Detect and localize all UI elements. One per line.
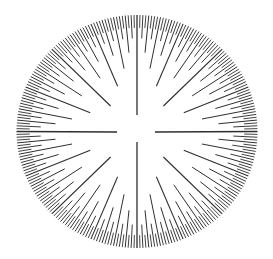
dial-tick xyxy=(150,17,161,68)
dial-tick xyxy=(128,15,129,28)
dial-tick xyxy=(160,222,166,245)
dial-tick xyxy=(116,17,118,30)
dial-tick xyxy=(102,20,113,56)
dial-tick xyxy=(228,69,239,76)
dial-tick xyxy=(44,182,74,206)
dial-tick xyxy=(161,20,172,56)
dial-tick xyxy=(35,69,46,76)
dial-tick xyxy=(19,109,72,119)
dial-tick xyxy=(68,216,76,226)
dial-tick xyxy=(163,157,222,214)
dial-tick xyxy=(155,234,157,247)
dial-tick xyxy=(83,224,89,235)
dial-tick xyxy=(22,155,59,166)
dial-tick xyxy=(61,193,85,222)
dial-tick xyxy=(244,123,257,124)
dial-tick xyxy=(228,187,239,194)
dial-tick xyxy=(17,136,41,137)
dial-tick xyxy=(180,226,185,238)
dial-tick xyxy=(17,144,30,146)
dial-tick xyxy=(180,25,185,37)
dial-tick xyxy=(113,194,124,245)
dial-tick xyxy=(128,235,129,248)
dial-tick xyxy=(243,144,256,146)
dial-tick xyxy=(230,74,242,80)
dial-tick xyxy=(199,36,207,46)
dial-tick xyxy=(230,183,242,189)
dial-tick xyxy=(78,30,85,41)
dial-tick xyxy=(73,33,80,44)
dial-tick xyxy=(131,15,132,38)
dial-tick xyxy=(38,64,49,71)
dial-tick xyxy=(19,154,32,157)
dial-tick xyxy=(142,225,143,248)
dial-tick xyxy=(68,36,76,46)
dial-tick xyxy=(200,182,230,206)
dial-tick xyxy=(18,149,31,151)
dial-tick xyxy=(233,79,245,85)
dial-tick xyxy=(116,234,118,247)
dial-tick xyxy=(231,154,254,160)
dial-tick xyxy=(243,117,256,119)
dial-tick xyxy=(35,187,46,194)
dial-tick xyxy=(185,27,191,38)
dial-tick xyxy=(88,25,93,37)
dial-tick xyxy=(131,225,132,248)
dial-tick xyxy=(150,194,161,245)
dial-tick xyxy=(194,219,201,230)
dial-tick xyxy=(113,17,124,68)
dial-tick xyxy=(160,18,166,41)
dial-tick xyxy=(161,18,164,31)
dial-tick xyxy=(19,144,72,154)
dial-tick xyxy=(61,41,85,70)
dial-tick xyxy=(145,235,146,248)
dial-tick xyxy=(202,144,255,154)
dial-tick xyxy=(78,222,85,233)
dial-tick xyxy=(150,234,152,247)
dial-tick xyxy=(187,211,199,231)
dial-tick xyxy=(17,117,30,119)
dial-tick xyxy=(161,207,172,243)
dial-tick xyxy=(244,139,257,140)
dial-tick xyxy=(190,30,197,41)
dial-tick xyxy=(32,183,44,189)
dial-tick xyxy=(44,58,74,82)
dial-tick xyxy=(20,103,43,109)
dial-tick xyxy=(108,222,114,245)
dial-tick xyxy=(29,178,41,184)
dial-tick xyxy=(215,155,252,166)
dial-tick xyxy=(22,98,59,109)
dial-tick xyxy=(190,222,197,233)
dial-tick xyxy=(194,33,201,44)
dial-tick xyxy=(145,15,146,28)
dial-tick xyxy=(111,233,114,246)
dial-tick xyxy=(102,207,113,243)
dial-tick xyxy=(38,191,49,198)
dial-tick xyxy=(34,179,55,191)
dial-tick xyxy=(73,219,80,230)
tick-group xyxy=(17,15,258,248)
dial-tick xyxy=(19,106,32,109)
dial-tick xyxy=(88,226,93,238)
dial-tick xyxy=(155,17,157,30)
dial-tick xyxy=(20,154,43,160)
dial-tick xyxy=(242,154,255,157)
dial-tick xyxy=(233,178,245,184)
dial-tick xyxy=(202,109,255,119)
radial-tick-pattern xyxy=(0,0,273,259)
dial-tick xyxy=(52,49,111,106)
dial-tick xyxy=(225,191,236,198)
dial-tick xyxy=(199,216,207,226)
dial-tick xyxy=(220,72,241,84)
dial-tick xyxy=(185,224,191,235)
dial-tick xyxy=(17,132,118,133)
dial-tick xyxy=(17,139,30,140)
dial-tick xyxy=(161,233,164,246)
dial-tick xyxy=(243,112,256,114)
dial-tick xyxy=(155,132,258,133)
dial-tick xyxy=(29,79,41,85)
dial-tick xyxy=(189,41,213,70)
dial-tick xyxy=(142,15,143,38)
dial-tick xyxy=(52,157,111,214)
dial-tick xyxy=(122,234,124,247)
